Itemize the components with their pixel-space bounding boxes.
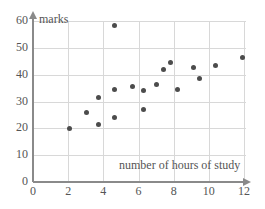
data-point [67, 126, 72, 131]
data-point [84, 110, 89, 115]
y-tick-label: 20 [4, 120, 28, 135]
y-tick-label: 0 [4, 174, 28, 189]
data-point [197, 76, 202, 81]
data-point [175, 87, 180, 92]
y-tick-label: 30 [4, 94, 28, 109]
y-tick-label: 60 [4, 13, 28, 28]
gridline-horizontal [33, 102, 246, 103]
x-axis-title: number of hours of study [119, 158, 240, 173]
x-tick-label: 4 [91, 184, 115, 199]
y-axis-arrow-icon [29, 11, 37, 19]
scatter-chart: marks number of hours of study 024681012… [0, 0, 265, 209]
gridline-horizontal [33, 128, 246, 129]
data-point [240, 55, 245, 60]
x-tick-label: 10 [197, 184, 221, 199]
x-tick-label: 6 [127, 184, 151, 199]
y-tick-label: 10 [4, 147, 28, 162]
y-axis-title: marks [39, 12, 68, 27]
data-point [168, 60, 173, 65]
x-tick-label: 12 [232, 184, 256, 199]
x-axis-line [33, 181, 244, 183]
y-tick-label: 40 [4, 67, 28, 82]
gridline-horizontal [33, 155, 246, 156]
x-tick-label: 2 [56, 184, 80, 199]
data-point [112, 23, 117, 28]
y-tick-label: 50 [4, 40, 28, 55]
gridline-horizontal [33, 48, 246, 49]
y-axis-line [32, 18, 34, 182]
gridline-horizontal [33, 75, 246, 76]
x-tick-label: 8 [162, 184, 186, 199]
